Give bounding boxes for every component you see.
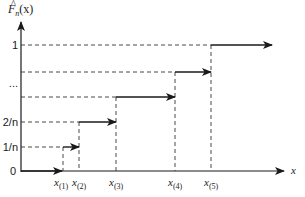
horizontal-guides xyxy=(21,45,211,147)
vertical-guides xyxy=(63,45,211,171)
ytick-zero: 0 xyxy=(0,166,16,177)
ytick-one-n: 1/n xyxy=(0,142,18,153)
y-axis-title: F^n(x) xyxy=(8,3,33,18)
xtick-5: x(5) xyxy=(204,177,218,191)
step-segments xyxy=(21,45,272,171)
x-axis-title: x xyxy=(291,165,296,176)
ytick-one: 1 xyxy=(0,40,18,51)
ecdf-plot xyxy=(0,0,305,197)
xtick-1: x(1) xyxy=(54,177,68,191)
xtick-2: x(2) xyxy=(72,177,86,191)
xtick-3: x(3) xyxy=(109,177,123,191)
ytick-ellipsis: ... xyxy=(0,78,18,89)
xtick-4: x(4) xyxy=(168,177,182,191)
ytick-two-n: 2/n xyxy=(0,117,18,128)
